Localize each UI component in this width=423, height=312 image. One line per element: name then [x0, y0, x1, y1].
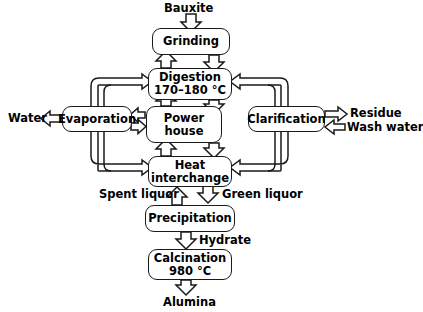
- stream-label-green-liquor: Green liquor: [222, 188, 303, 201]
- node-clarification-label: Clarification: [247, 113, 325, 126]
- flow-clarification-to-heat: [230, 132, 288, 175]
- node-evaporation-label: Evaporation: [58, 113, 136, 126]
- stream-label-spent-liquor: Spent liquor: [99, 188, 179, 201]
- node-power-house-label-line1: Power: [164, 112, 204, 125]
- stream-label-wash-water: Wash water: [347, 121, 423, 134]
- node-calcination-label: Calcination: [154, 252, 226, 265]
- stream-label-water: Water: [8, 112, 47, 125]
- flow-evaporation-to-heat: [91, 132, 152, 175]
- stream-label-alumina: Alumina: [163, 296, 216, 309]
- node-precipitation-label: Precipitation: [148, 212, 232, 225]
- flow-clarification-to-heat-b: [268, 132, 275, 171]
- node-digestion-temperature: 170–180 °C: [154, 84, 226, 97]
- flow-heat-to-precipitation: [198, 185, 218, 203]
- flow-evaporation-to-heat-b: [104, 132, 111, 171]
- stream-label-hydrate: Hydrate: [199, 234, 251, 247]
- node-heat-interchange[interactable]: Heat interchange: [148, 156, 232, 187]
- flow-washwater-to-clarification: [325, 120, 345, 134]
- stream-label-residue: Residue: [350, 107, 402, 120]
- stream-label-bauxite: Bauxite: [164, 2, 213, 15]
- node-precipitation[interactable]: Precipitation: [145, 205, 235, 232]
- node-power-house-label-line2: house: [165, 125, 204, 138]
- flow-precipitation-to-calcination: [176, 232, 196, 249]
- node-digestion[interactable]: Digestion 170–180 °C: [148, 68, 232, 100]
- node-evaporation[interactable]: Evaporation: [62, 106, 132, 132]
- flow-clarification-to-residue: [325, 107, 347, 121]
- node-calcination[interactable]: Calcination 980 °C: [148, 249, 232, 280]
- node-clarification[interactable]: Clarification: [248, 106, 325, 132]
- flow-evaporation-to-digestion-b: [104, 85, 111, 106]
- flow-evaporation-to-digestion: [91, 74, 152, 106]
- node-heat-interchange-label-line1: Heat: [175, 159, 206, 172]
- flow-clarification-to-digestion: [230, 74, 288, 106]
- node-grinding[interactable]: Grinding: [152, 28, 230, 55]
- node-calcination-temperature: 980 °C: [169, 265, 211, 278]
- flow-clarification-to-digestion-b: [268, 85, 275, 106]
- node-heat-interchange-label-line2: interchange: [151, 172, 229, 185]
- node-grinding-label: Grinding: [163, 35, 219, 48]
- flow-calcination-to-alumina: [176, 280, 196, 295]
- node-power-house[interactable]: Power house: [146, 106, 222, 143]
